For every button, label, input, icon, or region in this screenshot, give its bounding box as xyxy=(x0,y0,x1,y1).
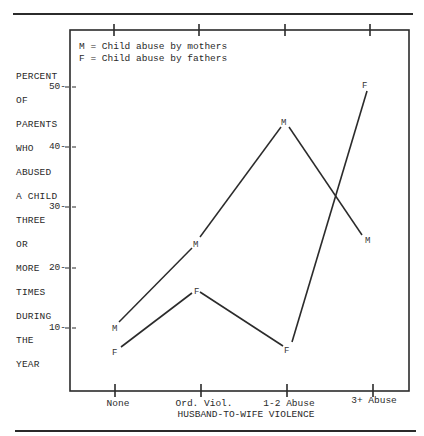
svg-text:F: F xyxy=(112,348,117,358)
svg-text:F: F xyxy=(284,346,289,356)
svg-text:F: F xyxy=(362,81,367,91)
y-label-line: THE xyxy=(16,335,34,346)
y-label-line: MORE xyxy=(16,263,40,274)
svg-text:M: M xyxy=(112,324,117,334)
series-mothers-markers: M M M M xyxy=(112,118,370,334)
plot-frame xyxy=(70,30,409,391)
y-tick-label-10: 10- xyxy=(38,322,66,333)
y-label-line: OF xyxy=(16,95,28,106)
x-tick-label-none: None xyxy=(107,398,130,409)
y-tick-label-40: 40- xyxy=(38,141,66,152)
y-tick-label-30: 30- xyxy=(38,201,66,212)
y-label-line: YEAR xyxy=(16,359,40,370)
y-tick-label-20: 20- xyxy=(38,262,66,273)
legend-mothers: M = Child abuse by mothers xyxy=(79,41,227,52)
x-axis-title: HUSBAND-TO-WIFE VIOLENCE xyxy=(178,409,315,420)
y-ticks xyxy=(65,87,79,328)
x-tick-label-3plus-abuse: 3+ Abuse xyxy=(351,395,397,406)
y-label-line: WHO xyxy=(16,143,34,154)
svg-text:M: M xyxy=(365,236,370,246)
y-label-line: OR xyxy=(16,239,28,250)
chart-plot: M M M M F F F F xyxy=(0,0,424,436)
y-label-line: DURING xyxy=(16,311,51,322)
x-tick-label-1-2-abuse: 1-2 Abuse xyxy=(263,398,314,409)
y-tick-label-50: 50- xyxy=(38,81,66,92)
y-label-line: ABUSED xyxy=(16,167,51,178)
svg-text:M: M xyxy=(193,240,198,250)
legend-fathers: F = Child abuse by fathers xyxy=(79,53,227,64)
y-label-line: TIMES xyxy=(16,287,46,298)
x-tick-label-ord-viol: Ord. Viol. xyxy=(175,398,232,409)
svg-text:M: M xyxy=(281,118,286,128)
svg-text:F: F xyxy=(194,287,199,297)
series-mothers xyxy=(119,127,362,322)
y-label-line: PARENTS xyxy=(16,119,57,130)
y-label-line: THREE xyxy=(16,215,46,226)
series-fathers xyxy=(121,91,367,347)
